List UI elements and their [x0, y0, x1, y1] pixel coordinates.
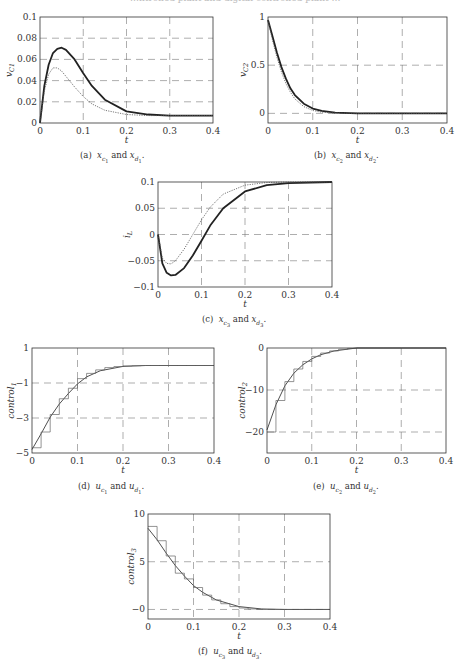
x-tick-label: 0.1	[76, 126, 90, 136]
y-tick-label: −5	[16, 448, 30, 458]
x-tick-label: 0	[29, 456, 35, 466]
x-tick-label: 0.3	[163, 126, 178, 136]
x-axis-label: t	[243, 299, 247, 309]
y-tick-label: 0	[259, 108, 265, 118]
y-tick-label: −0.1	[133, 282, 155, 292]
x-axis-label: t	[356, 135, 360, 145]
y-tick-label: 0	[149, 230, 155, 240]
subplot-d: 00.10.20.30.4−5−3−11tcontrol1	[6, 343, 221, 475]
x-tick-label: 0.1	[70, 456, 84, 466]
y-tick-label: 0.04	[17, 76, 37, 86]
x-tick-label: 0.1	[306, 126, 320, 136]
caption-b: (b) xc2 and xd2.	[314, 150, 379, 164]
caption-c: (c) xc3 and xd3.	[202, 314, 266, 328]
x-axis-label: t	[237, 631, 241, 641]
y-axis-label: control3	[126, 548, 138, 585]
y-tick-label: −20	[245, 427, 264, 437]
y-axis-label: iL	[122, 231, 134, 238]
x-tick-label: 0.4	[323, 622, 338, 632]
y-tick-label: 0.1	[23, 12, 37, 22]
x-tick-label: 0	[155, 290, 161, 300]
x-tick-label: 0.3	[277, 622, 292, 632]
x-tick-label: 0.1	[194, 290, 208, 300]
x-tick-label: 0.4	[207, 456, 222, 466]
x-tick-label: 0	[37, 126, 43, 136]
x-tick-label: 0.3	[394, 456, 409, 466]
subplot-e: 00.10.20.30.4−20−100tcontrol2	[237, 343, 453, 475]
y-tick-label: −0.05	[127, 256, 155, 266]
x-tick-label: 0.3	[281, 290, 296, 300]
caption-e: (e) uc2 and ud2.	[313, 481, 379, 495]
x-tick-label: 0.4	[206, 126, 221, 136]
x-tick-label: 0	[265, 126, 271, 136]
y-tick-label: 0.05	[135, 203, 155, 213]
y-axis-label: vC1	[4, 63, 16, 77]
y-axis-label: vC2	[238, 63, 250, 77]
subplot-b: 00.10.20.30.400.51tvC2	[238, 12, 454, 145]
x-tick-label: 0.4	[439, 456, 454, 466]
x-tick-label: 0.4	[440, 126, 455, 136]
subplot-a: 00.10.20.30.400.020.040.060.080.1tvC1	[4, 12, 220, 145]
caption-f: (f) uc3 and ud3.	[198, 646, 262, 660]
y-tick-label: 0	[258, 343, 264, 353]
y-tick-label: 1	[259, 12, 265, 22]
x-tick-label: 0.3	[161, 456, 176, 466]
y-tick-label: −0	[132, 604, 146, 614]
y-tick-label: −3	[16, 413, 30, 423]
caption-a: (a) xc1 and xd1.	[80, 150, 144, 164]
subplot-f: 00.10.20.30.4−0510tcontrol3	[126, 509, 337, 641]
y-tick-label: 1	[23, 343, 29, 353]
y-tick-label: 0	[31, 118, 37, 128]
x-axis-label: t	[125, 135, 129, 145]
y-tick-label: 5	[139, 557, 145, 567]
x-axis-label: t	[121, 465, 125, 475]
y-tick-label: 0.02	[17, 97, 37, 107]
x-tick-label: 0	[145, 622, 151, 632]
caption-d: (d) uc1 and ud1.	[78, 481, 144, 495]
y-tick-label: 0.5	[251, 60, 266, 70]
x-tick-label: 0.1	[186, 622, 200, 632]
x-tick-label: 0.3	[395, 126, 410, 136]
y-tick-label: 0.1	[141, 177, 155, 187]
figure-canvas: 00.10.20.30.400.020.040.060.080.1tvC100.…	[0, 0, 462, 663]
y-tick-label: 0.08	[17, 33, 37, 43]
x-tick-label: 0.4	[325, 290, 340, 300]
y-tick-label: 0.06	[17, 54, 37, 64]
subplot-c: 00.10.20.30.4−0.1−0.0500.050.1tiL	[122, 177, 339, 309]
x-tick-label: 0	[264, 456, 270, 466]
x-axis-label: t	[355, 465, 359, 475]
y-tick-label: 10	[134, 509, 146, 519]
x-tick-label: 0.1	[305, 456, 319, 466]
